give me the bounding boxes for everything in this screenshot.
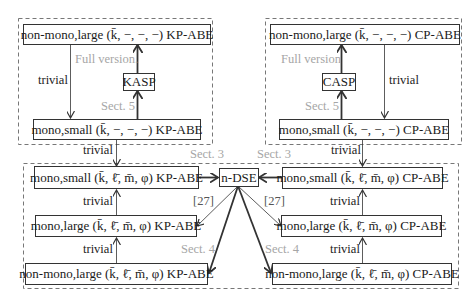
cp-nonmono-large-node: non-mono,large (k̄, ℓ̄, m̄, φ) CP-ABE bbox=[272, 263, 452, 285]
cp-trivial-1-label: trivial bbox=[330, 194, 360, 209]
cp-ref27-label: [27] bbox=[264, 194, 285, 209]
kp-sect4-label: Sect. 4 bbox=[181, 242, 215, 257]
diagram-edges bbox=[0, 0, 475, 304]
cp-full-version-label: Full version bbox=[281, 52, 341, 67]
cp-mono-small-top-node: mono,small (k̄, −, −, −) CP-ABE bbox=[279, 119, 449, 140]
cp-trivial-2-label: trivial bbox=[330, 242, 360, 257]
kp-full-version-label: Full version. bbox=[75, 52, 138, 67]
kp-trivial-2-label: trivial bbox=[83, 242, 113, 257]
kp-trivial-1-label: trivial bbox=[83, 194, 113, 209]
cp-mono-large-node: mono,large (k̄, ℓ̄, m̄, φ) CP-ABE bbox=[281, 215, 442, 237]
cp-sect5-label: Sect. 5 bbox=[305, 99, 339, 114]
kp-mono-small-node: mono,small (k̄, ℓ̄, m̄, φ) KP-ABE bbox=[34, 166, 199, 189]
ndse-node: n-DSE bbox=[219, 168, 259, 187]
cp-top-trivial-label: trivial bbox=[389, 73, 419, 88]
kp-mono-large-node: mono,large (k̄, ℓ̄, m̄, φ) KP-ABE bbox=[35, 215, 197, 237]
cp-mono-small-node: mono,small (k̄, ℓ̄, m̄, φ) CP-ABE bbox=[282, 167, 443, 189]
cp-link-trivial-label: trivial bbox=[331, 143, 361, 158]
cp-sect4-label: Sect. 4 bbox=[265, 242, 299, 257]
kp-nonmono-large-node: non-mono,large (k̄, ℓ̄, m̄, φ) KP-ABE bbox=[25, 263, 208, 285]
kp-sect3-label: Sect. 3 bbox=[190, 147, 224, 162]
diagram-canvas: non-mono,large (k̄, −, −, −) KP-ABE KASP… bbox=[0, 0, 475, 304]
ndse-label: n-DSE bbox=[221, 170, 256, 186]
cp-nonmono-large-top-node: non-mono,large (k̄, −, −, −) CP-ABE bbox=[270, 24, 460, 45]
kp-link-trivial-label: trivial bbox=[83, 143, 113, 158]
kp-ref27-label: [27] bbox=[193, 194, 214, 209]
kp-nonmono-large-top-node: non-mono,large (k̄, −, −, −) KP-ABE bbox=[23, 24, 211, 45]
kp-mono-small-top-node: mono,small (k̄, −, −, −) KP-ABE bbox=[33, 119, 201, 140]
casp-node: CASP bbox=[322, 73, 356, 91]
kp-sect5-label: Sect. 5 bbox=[101, 99, 135, 114]
cp-sect3-label: Sect. 3 bbox=[257, 147, 291, 162]
kp-top-trivial-label: trivial bbox=[38, 73, 68, 88]
kasp-node: KASP bbox=[123, 73, 155, 91]
